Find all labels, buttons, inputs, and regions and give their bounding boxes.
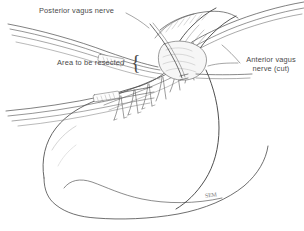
label-posterior-vagus-nerve: Posterior vagus nerve: [39, 6, 114, 15]
retractor-shafts-upper-right: [186, 2, 304, 54]
esophagogastric-junction: [150, 8, 238, 80]
retractor-shaft-lower-right: [196, 74, 252, 79]
label-anterior-vagus-nerve: Anterior vagus nerve (cut): [241, 55, 301, 73]
label-anterior-vagus-line1: Anterior vagus: [246, 55, 296, 64]
stomach-outline: [43, 68, 268, 219]
leader-posterior-vagus: [126, 13, 149, 28]
surgical-illustration-figure: Posterior vagus nerve Area to be resecte…: [0, 0, 304, 231]
illustration-canvas: [0, 0, 304, 231]
label-area-to-be-resected: Area to be resected: [57, 58, 124, 67]
leader-anterior-vagus-hook: [222, 45, 240, 63]
resection-brace-marker: {: [131, 52, 141, 72]
label-anterior-vagus-line2: nerve (cut): [253, 64, 290, 73]
leader-anterior-vagus: [208, 63, 238, 66]
clamp-lower-bundle: [6, 87, 154, 126]
